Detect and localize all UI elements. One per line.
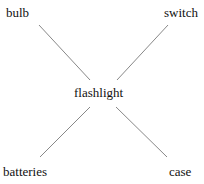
edge-switch: [117, 25, 168, 80]
edge-batteries: [40, 107, 90, 157]
node-case: case: [169, 164, 191, 179]
node-flashlight: flashlight: [74, 85, 123, 100]
node-bulb: bulb: [6, 5, 29, 20]
node-switch: switch: [164, 5, 198, 20]
edge-bulb: [39, 25, 90, 80]
node-batteries: batteries: [3, 164, 47, 179]
edge-case: [116, 107, 167, 157]
